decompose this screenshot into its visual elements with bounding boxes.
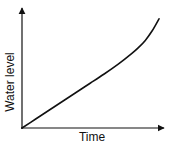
y-axis-label: Water level bbox=[3, 52, 17, 112]
line-chart: Time Water level bbox=[0, 0, 170, 146]
x-axis-label: Time bbox=[79, 130, 106, 144]
water-level-curve bbox=[22, 19, 159, 128]
